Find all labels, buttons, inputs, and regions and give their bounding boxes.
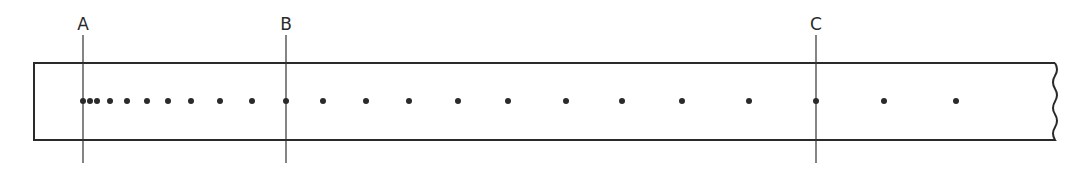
tape-dot	[505, 98, 511, 104]
tape-dot	[107, 98, 113, 104]
tape-dot	[320, 98, 326, 104]
tape-dot	[217, 98, 223, 104]
tape-dot	[455, 98, 461, 104]
tape-dot	[283, 98, 289, 104]
tape-dot	[406, 98, 412, 104]
tape-dot	[679, 98, 685, 104]
tape-dot	[87, 98, 93, 104]
tape-dot	[144, 98, 150, 104]
tape-dot	[563, 98, 569, 104]
marker-label-a: A	[77, 14, 89, 34]
tape-dot	[746, 98, 752, 104]
tape-dot	[881, 98, 887, 104]
tape-dot	[363, 98, 369, 104]
tape-dot	[80, 98, 86, 104]
tape-dot	[124, 98, 130, 104]
marker-label-b: B	[280, 14, 292, 34]
tape-dot	[94, 98, 100, 104]
tape-dot	[188, 98, 194, 104]
tape-dot	[165, 98, 171, 104]
tape-dot	[249, 98, 255, 104]
tape-dot	[813, 98, 819, 104]
tape-dot	[619, 98, 625, 104]
marker-label-c: C	[810, 14, 822, 34]
tape-strip-figure	[0, 0, 1084, 179]
tape-dot	[953, 98, 959, 104]
tape-strip-outline	[34, 63, 1057, 140]
